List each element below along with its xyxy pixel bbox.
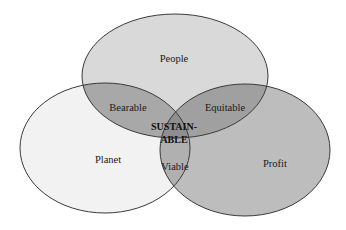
bearable-label: Bearable xyxy=(109,102,147,113)
sustainable-label-line1: SUSTAIN- xyxy=(151,121,197,132)
sustainable-label-line2: ABLE xyxy=(160,134,188,145)
planet-label: Planet xyxy=(95,154,121,165)
viable-label: Viable xyxy=(161,161,189,172)
profit-label: Profit xyxy=(263,158,287,169)
venn-diagram: People Planet Profit Bearable Equitable … xyxy=(0,0,346,230)
people-label: People xyxy=(160,53,189,64)
equitable-label: Equitable xyxy=(205,102,246,113)
